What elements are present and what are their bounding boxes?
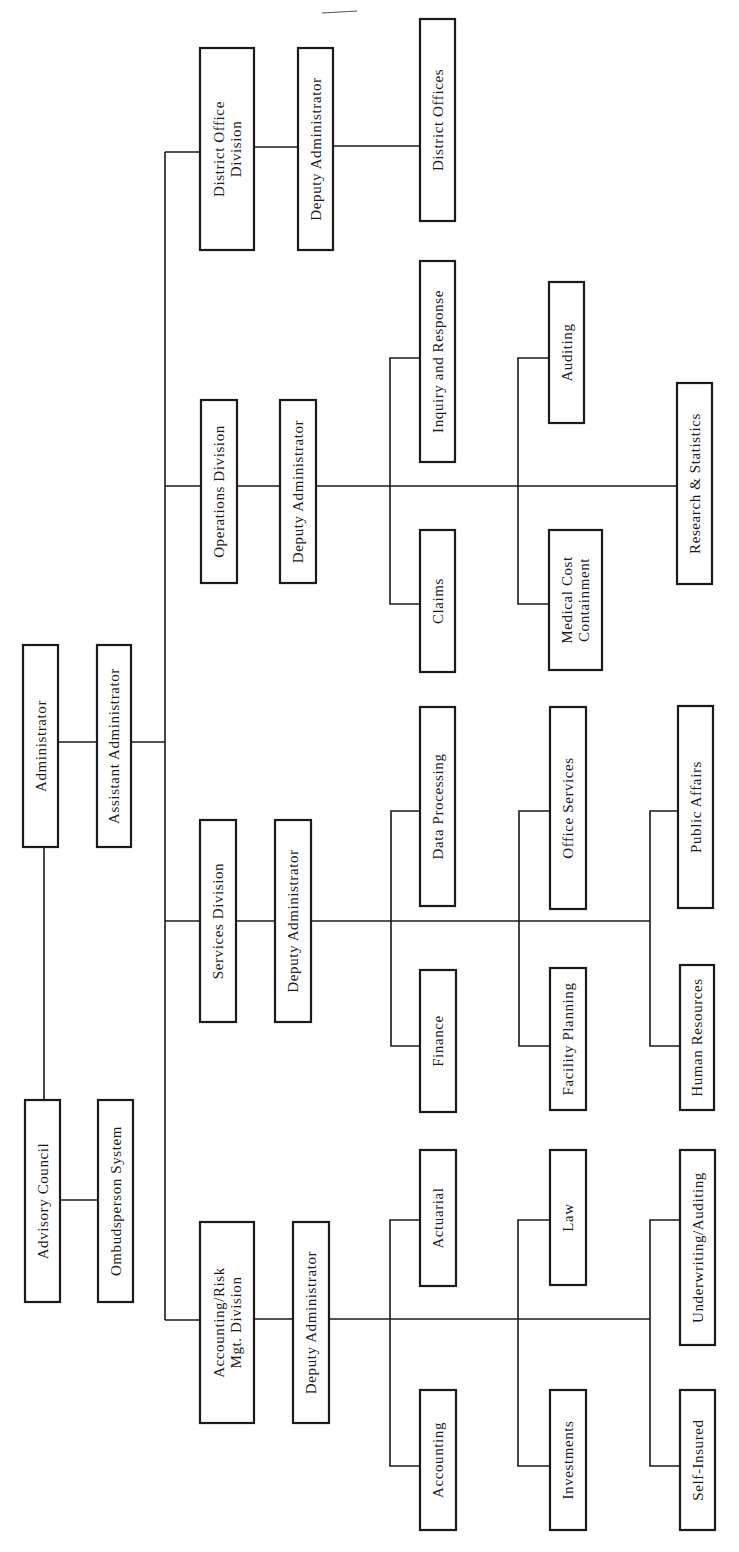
district-offices-box: District Offices (420, 19, 455, 221)
underwriting-auditing-box: Underwriting/Auditing (680, 1150, 715, 1345)
advisory-council-box-label: Advisory Council (35, 1143, 51, 1260)
accounting-risk-division-box: Accounting/RiskMgt. Division (200, 1222, 254, 1423)
medical-cost-containment-box: Medical CostContainment (549, 530, 602, 670)
law-box: Law (550, 1150, 586, 1285)
accounting-box: Accounting (420, 1390, 456, 1530)
ombudsperson-system-box: Ombudsperson System (98, 1100, 133, 1302)
operations-branch-2-line (518, 358, 549, 604)
services-division-box: Services Division (200, 820, 236, 1022)
accounting-branch-2-line (518, 1220, 550, 1466)
services-branch-3-line (650, 811, 680, 1046)
advisory-council-box: Advisory Council (25, 1100, 60, 1302)
facility-planning-box-label: Facility Planning (560, 982, 576, 1095)
operations-division-box-label: Operations Division (211, 425, 227, 558)
services-division-box-label: Services Division (210, 863, 226, 979)
operations-division-box: Operations Division (201, 400, 237, 583)
office-services-box: Office Services (550, 707, 586, 909)
finance-box-label: Finance (430, 1015, 446, 1067)
medical-cost-containment-box-label: Containment (576, 558, 592, 642)
ombudsperson-system-box-label: Ombudsperson System (108, 1126, 124, 1276)
self-insured-box: Self-Insured (680, 1390, 715, 1530)
org-chart: AdministratorAssistant AdministratorAdvi… (0, 0, 739, 1552)
human-resources-box: Human Resources (680, 965, 714, 1110)
district-deputy-administrator-box-label: Deputy Administrator (308, 77, 324, 220)
office-services-box-label: Office Services (560, 757, 576, 859)
data-processing-box: Data Processing (420, 707, 455, 906)
finance-box: Finance (420, 970, 456, 1112)
medical-cost-containment-box-label: Medical Cost (559, 556, 575, 644)
actuarial-box: Actuarial (420, 1150, 456, 1286)
facility-planning-box: Facility Planning (550, 968, 586, 1110)
underwriting-auditing-box-label: Underwriting/Auditing (690, 1172, 706, 1323)
public-affairs-box: Public Affairs (678, 706, 713, 908)
public-affairs-box-label: Public Affairs (688, 761, 704, 853)
district-office-division-box-label: District Office (211, 101, 227, 197)
services-deputy-administrator-box-label: Deputy Administrator (285, 849, 301, 992)
accounting-risk-deputy-administrator-box-label: Deputy Administrator (303, 1251, 319, 1394)
accounting-risk-deputy-administrator-box: Deputy Administrator (293, 1222, 329, 1423)
services-branch-1-line (391, 811, 420, 1046)
claims-box: Claims (420, 530, 455, 672)
auditing-box-label: Auditing (559, 323, 575, 381)
assistant-administrator-box: Assistant Administrator (97, 645, 131, 847)
accounting-branch-1-line (390, 1220, 420, 1466)
human-resources-box-label: Human Resources (689, 978, 705, 1097)
operations-deputy-administrator-box: Deputy Administrator (280, 400, 316, 583)
district-offices-box-label: District Offices (430, 69, 446, 171)
investments-box: Investments (550, 1390, 586, 1530)
accounting-branch-3-line (650, 1220, 680, 1466)
data-processing-box-label: Data Processing (430, 753, 446, 859)
law-box-label: Law (560, 1203, 576, 1231)
claims-box-label: Claims (430, 578, 446, 624)
accounting-risk-division-box-label: Accounting/Risk (211, 1267, 227, 1378)
district-office-division-box-label: Division (228, 121, 244, 177)
operations-deputy-administrator-box-label: Deputy Administrator (290, 420, 306, 563)
research-and-statistics-box-label: Research & Statistics (687, 413, 703, 554)
scan-artifact (322, 11, 357, 13)
self-insured-box-label: Self-Insured (690, 1419, 706, 1500)
district-deputy-administrator-box: Deputy Administrator (298, 48, 333, 250)
administrator-box-label: Administrator (33, 700, 49, 792)
investments-box-label: Investments (560, 1420, 576, 1499)
operations-branch-1-line (390, 358, 420, 604)
inquiry-and-response-box: Inquiry and Response (420, 261, 455, 462)
auditing-box: Auditing (549, 282, 584, 423)
inquiry-and-response-box-label: Inquiry and Response (430, 290, 446, 433)
accounting-risk-division-box-label: Mgt. Division (228, 1277, 244, 1369)
accounting-box-label: Accounting (430, 1422, 446, 1498)
services-branch-2-line (519, 811, 550, 1046)
services-deputy-administrator-box: Deputy Administrator (275, 820, 311, 1022)
district-office-division-box: District OfficeDivision (200, 48, 254, 250)
actuarial-box-label: Actuarial (430, 1187, 446, 1248)
assistant-administrator-box-label: Assistant Administrator (106, 668, 122, 824)
research-and-statistics-box: Research & Statistics (677, 383, 712, 584)
administrator-box: Administrator (23, 645, 58, 847)
